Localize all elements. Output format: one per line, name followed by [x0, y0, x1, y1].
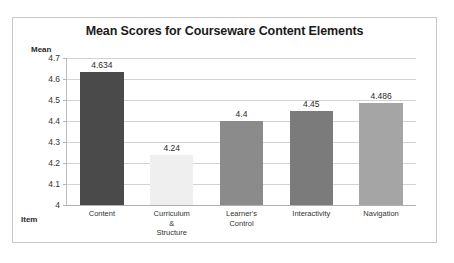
y-tick-label: 4.6 [48, 74, 60, 84]
y-tick-label: 4.4 [48, 116, 60, 126]
category-label: Interactivity [292, 209, 330, 219]
chart-frame: Mean Scores for Courseware Content Eleme… [12, 17, 437, 243]
category-label: Content [89, 209, 115, 219]
x-axis-title: Item [21, 215, 37, 224]
y-tick-mark [63, 205, 67, 206]
bar[interactable]: 4.634 [80, 72, 123, 205]
bar[interactable]: 4.4 [220, 121, 263, 205]
bar-value-label: 4.45 [303, 99, 320, 109]
plot-area: 44.14.24.34.44.54.64.7 4.634Content4.24C… [66, 58, 416, 205]
bar-value-label: 4.24 [163, 143, 180, 153]
y-tick-label: 4 [55, 200, 60, 210]
bar-value-label: 4.486 [370, 91, 391, 101]
category-label: Learner's Control [226, 209, 257, 228]
y-tick-label: 4.1 [48, 179, 60, 189]
bar-slot: 4.24Curriculum & Structure [137, 58, 207, 205]
bar[interactable]: 4.45 [290, 111, 333, 206]
category-label: Curriculum & Structure [154, 209, 190, 238]
bar[interactable]: 4.486 [359, 103, 402, 205]
bar-value-label: 4.634 [91, 60, 112, 70]
y-tick-label: 4.2 [48, 158, 60, 168]
y-tick-label: 4.3 [48, 137, 60, 147]
bar-value-label: 4.4 [236, 109, 248, 119]
bar[interactable]: 4.24 [150, 155, 193, 205]
bar-slot: 4.486Navigation [346, 58, 416, 205]
category-label: Navigation [363, 209, 398, 219]
chart-title: Mean Scores for Courseware Content Eleme… [13, 24, 436, 38]
y-tick-label: 4.7 [48, 53, 60, 63]
y-tick-label: 4.5 [48, 95, 60, 105]
bar-slot: 4.634Content [67, 58, 137, 205]
bar-slot: 4.4Learner's Control [207, 58, 277, 205]
bar-slot: 4.45Interactivity [276, 58, 346, 205]
gridline [67, 205, 416, 206]
